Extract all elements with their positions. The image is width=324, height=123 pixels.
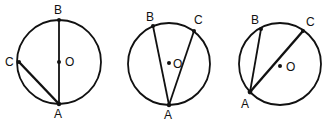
point-C-3 <box>301 29 305 33</box>
center-O-1 <box>57 60 61 64</box>
center-O-3 <box>278 64 282 68</box>
label-A-1: A <box>54 107 62 121</box>
point-A-2 <box>167 103 171 107</box>
label-O-1: O <box>65 55 74 69</box>
center-O-2 <box>167 61 171 65</box>
label-A-2: A <box>164 108 172 122</box>
chord-AB-2 <box>153 26 169 105</box>
point-C-2 <box>192 29 196 33</box>
label-O-2: O <box>173 57 182 71</box>
point-B-2 <box>151 24 155 28</box>
chord-AC-1 <box>19 62 59 104</box>
diagram-3: A B C O <box>239 13 321 111</box>
label-A-3: A <box>241 97 249 111</box>
diagram-2: A B C O <box>128 10 210 122</box>
label-C-2: C <box>194 13 203 27</box>
label-B-1: B <box>54 3 62 17</box>
label-B-2: B <box>146 10 154 24</box>
label-C-1: C <box>5 55 14 69</box>
label-O-3: O <box>286 60 295 74</box>
point-C-1 <box>17 60 21 64</box>
point-B-1 <box>57 18 61 22</box>
point-B-3 <box>259 27 263 31</box>
diagram-1: A B C O <box>5 3 101 121</box>
label-B-3: B <box>251 13 259 27</box>
label-C-3: C <box>306 15 315 29</box>
point-A-3 <box>248 90 253 95</box>
circle-chords-figure: A B C O A B C O A B C O <box>0 0 324 123</box>
point-A-1 <box>57 102 61 106</box>
